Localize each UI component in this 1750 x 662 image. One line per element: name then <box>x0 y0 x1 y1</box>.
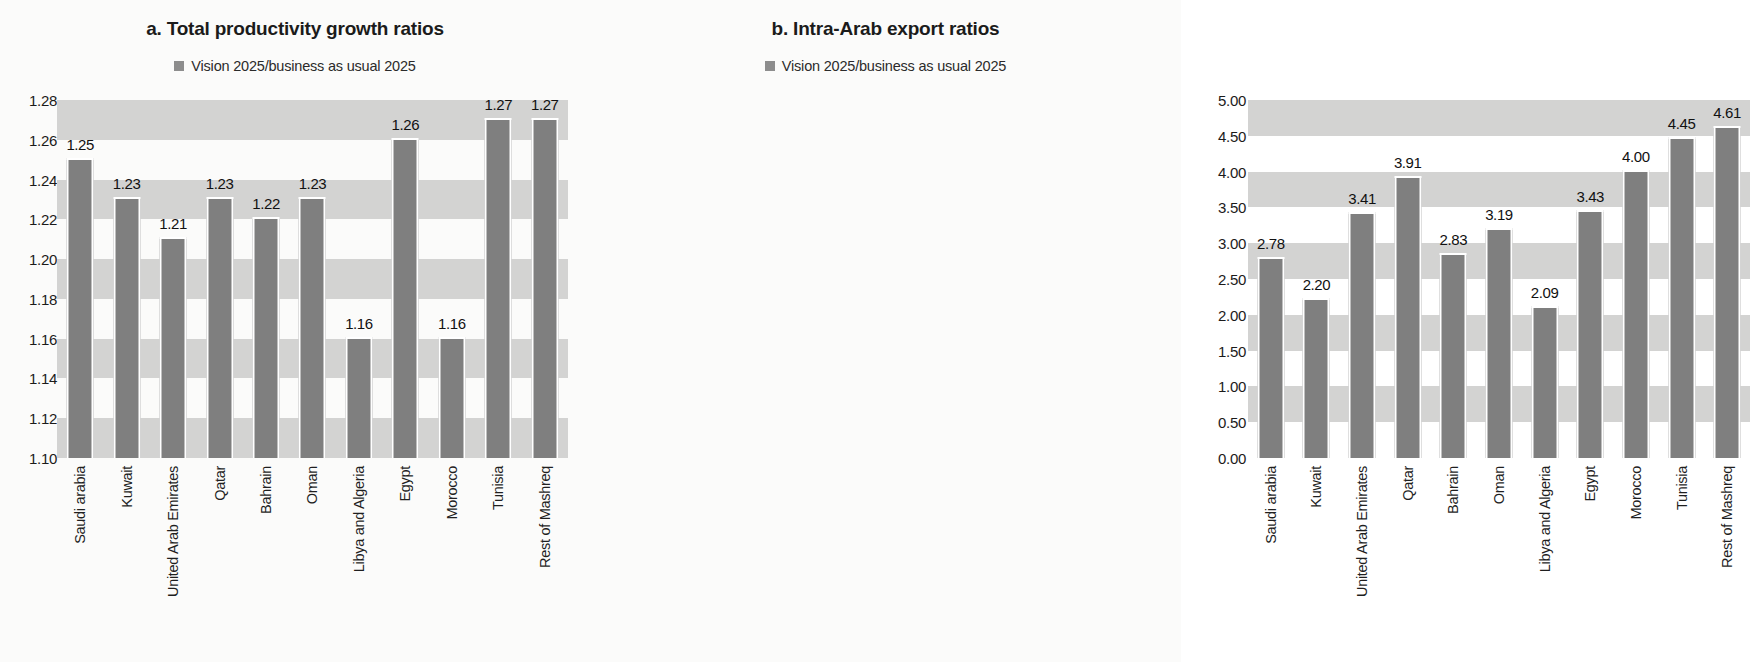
y-axis-tick-label: 1.28 <box>29 92 57 109</box>
bar[interactable] <box>206 197 233 458</box>
category-label: Libya and Algeria <box>1537 466 1553 572</box>
bar-value-label: 3.19 <box>1485 206 1513 223</box>
bar-value-label: 1.23 <box>299 175 327 192</box>
y-axis-tick-label: 0.00 <box>1218 450 1246 467</box>
y-axis-tick-label: 1.16 <box>29 330 57 347</box>
bar-group: 3.41United Arab Emirates <box>1339 100 1385 458</box>
y-axis-tick-label: 1.22 <box>29 211 57 228</box>
panel-a-y-axis: 1.281.261.241.221.201.181.161.141.121.10 <box>5 100 57 458</box>
bar-value-label: 1.26 <box>392 116 420 133</box>
bar-group: 1.21United Arab Emirates <box>150 100 196 458</box>
bar-value-label: 1.16 <box>345 315 373 332</box>
y-axis-tick-label: 0.50 <box>1218 414 1246 431</box>
bar-group: 2.78Saudi arabia <box>1248 100 1294 458</box>
category-label: Bahrain <box>1445 466 1461 514</box>
category-label: Kuwait <box>1308 466 1324 508</box>
bar-group: 1.27Tunisia <box>475 100 521 458</box>
bar[interactable] <box>299 197 326 458</box>
panel-a-legend: Vision 2025/business as usual 2025 <box>0 58 614 74</box>
y-axis-tick-label: 1.00 <box>1218 378 1246 395</box>
bar-group: 1.23Qatar <box>196 100 242 458</box>
category-label: Morocco <box>444 466 460 520</box>
category-label: Qatar <box>212 466 228 501</box>
bar-value-label: 4.61 <box>1713 104 1741 121</box>
y-axis-tick-label: 1.26 <box>29 131 57 148</box>
bar[interactable] <box>1622 170 1649 458</box>
legend-square-icon <box>174 61 184 71</box>
bar[interactable] <box>1668 137 1695 458</box>
bar[interactable] <box>392 138 419 458</box>
bar-value-label: 2.09 <box>1531 284 1559 301</box>
panel-b-plot-area: 2.78Saudi arabia2.20Kuwait3.41United Ara… <box>1248 100 1750 458</box>
y-axis-tick-label: 3.50 <box>1218 199 1246 216</box>
bar-value-label: 1.27 <box>531 96 559 113</box>
category-label: Egypt <box>1582 466 1598 502</box>
bar[interactable] <box>345 337 372 458</box>
bar-group: 2.09Libya and Algeria <box>1522 100 1568 458</box>
bar-value-label: 1.23 <box>206 175 234 192</box>
category-label: Oman <box>304 466 320 504</box>
bar[interactable] <box>1577 210 1604 458</box>
bar[interactable] <box>485 118 512 458</box>
category-label: Saudi arabia <box>72 466 88 544</box>
y-axis-tick-label: 5.00 <box>1218 92 1246 109</box>
y-axis-tick-label: 1.20 <box>29 251 57 268</box>
category-label: Saudi arabia <box>1263 466 1279 544</box>
chart-panel-b: b. Intra-Arab export ratios Vision 2025/… <box>590 0 1181 662</box>
bar-value-label: 1.27 <box>484 96 512 113</box>
bar-group: 1.16Morocco <box>429 100 475 458</box>
bar-group: 2.83Bahrain <box>1431 100 1477 458</box>
category-label: United Arab Emirates <box>165 466 181 597</box>
category-label: Tunisia <box>490 466 506 510</box>
category-label: Bahrain <box>258 466 274 514</box>
category-label: Oman <box>1491 466 1507 504</box>
y-axis-tick-label: 2.50 <box>1218 271 1246 288</box>
bar[interactable] <box>1440 253 1467 458</box>
bar[interactable] <box>113 197 140 458</box>
bar-group: 4.45Tunisia <box>1659 100 1705 458</box>
bar[interactable] <box>160 237 187 458</box>
legend-square-icon <box>765 61 775 71</box>
bar-value-label: 3.91 <box>1394 154 1422 171</box>
bar[interactable] <box>253 217 280 458</box>
bar-value-label: 4.45 <box>1668 115 1696 132</box>
panel-b-legend-label: Vision 2025/business as usual 2025 <box>782 58 1006 74</box>
bar-value-label: 1.21 <box>159 215 187 232</box>
bar-value-label: 1.22 <box>252 195 280 212</box>
bar[interactable] <box>1394 176 1421 458</box>
bar[interactable] <box>438 337 465 458</box>
bar[interactable] <box>1257 257 1284 458</box>
y-axis-tick-label: 1.50 <box>1218 342 1246 359</box>
category-label: Rest of Mashreq <box>1719 466 1735 568</box>
bar[interactable] <box>1485 228 1512 458</box>
bar-value-label: 2.78 <box>1257 235 1285 252</box>
panel-a-bars: 1.25Saudi arabia1.23Kuwait1.21United Ara… <box>57 100 568 458</box>
bar-group: 1.23Kuwait <box>103 100 149 458</box>
bar-group: 1.16Libya and Algeria <box>336 100 382 458</box>
chart-panel-a: a. Total productivity growth ratios Visi… <box>0 0 590 662</box>
bar-group: 1.25Saudi arabia <box>57 100 103 458</box>
y-axis-tick-label: 1.18 <box>29 290 57 307</box>
bar-group: 1.26Egypt <box>382 100 428 458</box>
panel-a-legend-label: Vision 2025/business as usual 2025 <box>191 58 415 74</box>
bar-value-label: 1.16 <box>438 315 466 332</box>
bar-group: 4.61Rest of Mashreq <box>1704 100 1750 458</box>
bar[interactable] <box>1714 126 1741 458</box>
bar[interactable] <box>1531 306 1558 458</box>
bar-group: 2.20Kuwait <box>1294 100 1340 458</box>
bar-value-label: 3.43 <box>1576 188 1604 205</box>
category-label: Kuwait <box>119 466 135 508</box>
bar[interactable] <box>1303 298 1330 458</box>
bar-value-label: 2.20 <box>1303 276 1331 293</box>
bar-value-label: 2.83 <box>1440 231 1468 248</box>
bar-value-label: 1.23 <box>113 175 141 192</box>
bar[interactable] <box>1349 212 1376 458</box>
bar-value-label: 3.41 <box>1348 190 1376 207</box>
category-label: United Arab Emirates <box>1354 466 1370 597</box>
bar[interactable] <box>531 118 558 458</box>
y-axis-tick-label: 1.12 <box>29 410 57 427</box>
bar[interactable] <box>67 158 94 458</box>
bar-group: 4.00Morocco <box>1613 100 1659 458</box>
panel-a-title: a. Total productivity growth ratios <box>0 18 618 40</box>
bar-value-label: 1.25 <box>66 136 94 153</box>
